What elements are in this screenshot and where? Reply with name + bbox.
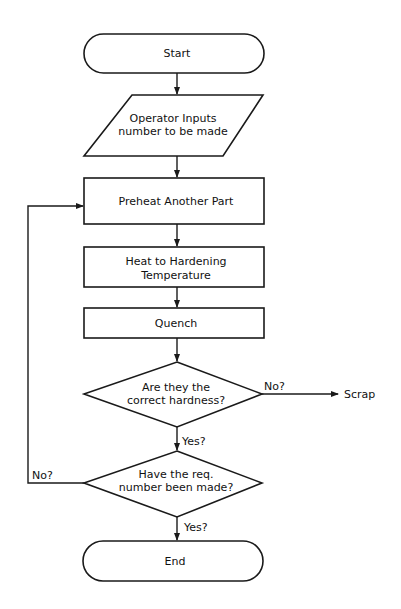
- quench-label: Quench: [155, 317, 197, 330]
- preheat-process: Preheat Another Part: [84, 178, 264, 224]
- count-no-label: No?: [32, 469, 53, 482]
- start-label: Start: [164, 47, 192, 60]
- start-terminator: Start: [84, 34, 264, 73]
- heat-process: Heat to Hardening Temperature: [84, 247, 264, 287]
- input-label-line1: Operator Inputs: [130, 112, 217, 125]
- operator-input-node: Operator Inputs number to be made: [84, 95, 263, 156]
- count-yes-label: Yes?: [183, 521, 208, 534]
- hardness-decision: Are they the correct hardness?: [84, 362, 262, 427]
- scrap-label: Scrap: [344, 388, 375, 401]
- hardness-label-line1: Are they the: [142, 381, 210, 394]
- count-label-line1: Have the req.: [139, 468, 214, 481]
- preheat-label: Preheat Another Part: [119, 195, 234, 208]
- arrow-count-no-loop-to-preheat: [28, 206, 84, 483]
- hardness-no-label: No?: [264, 380, 285, 393]
- heat-label-line2: Temperature: [140, 269, 211, 282]
- input-label-line2: number to be made: [118, 125, 228, 138]
- end-terminator: End: [83, 541, 263, 581]
- count-decision: Have the req. number been made?: [84, 451, 262, 517]
- heat-label-line1: Heat to Hardening: [125, 255, 226, 268]
- count-label-line2: number been made?: [119, 481, 234, 494]
- flowchart-canvas: Start Operator Inputs number to be made …: [0, 0, 401, 609]
- hardness-label-line2: correct hardness?: [127, 394, 225, 407]
- end-label: End: [165, 555, 186, 568]
- hardness-yes-label: Yes?: [181, 435, 206, 448]
- quench-process: Quench: [84, 308, 264, 338]
